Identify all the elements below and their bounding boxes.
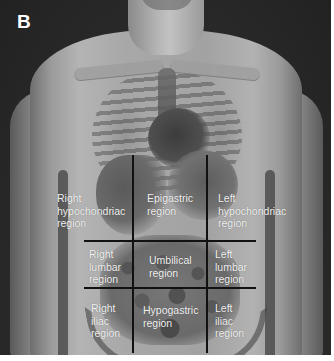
grid-line-vertical-right [132,155,134,353]
grid-line-horizontal-lower [84,287,256,289]
label-right-hypochondriac: Right hypochondriac region [57,192,125,230]
label-right-iliac: Right iliac region [91,302,120,340]
label-left-hypochondriac: Left hypochondriac region [218,192,286,230]
label-hypogastric: Hypogastric region [143,304,198,329]
label-epigastric: Epigastric region [147,192,193,217]
label-right-lumbar: Right lumbar region [89,248,121,286]
grid-line-horizontal-upper [84,240,256,242]
label-left-iliac: Left iliac region [215,302,244,340]
panel-label: B [17,12,31,31]
label-left-lumbar: Left lumbar region [215,248,247,286]
grid-line-vertical-left [206,155,208,353]
label-umbilical: Umbilical region [149,254,192,279]
anatomy-figure: B Right hypochondriac region Epigastric … [0,0,331,355]
